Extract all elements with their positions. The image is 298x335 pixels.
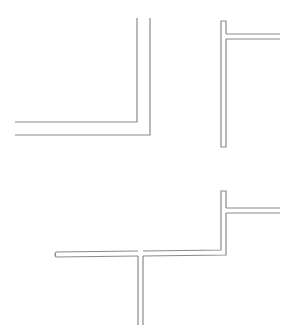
wall-line <box>15 18 137 122</box>
stepped-wall-with-stem <box>55 191 280 325</box>
wall-line <box>55 251 138 257</box>
l-corner-wall <box>15 18 150 135</box>
wall-line <box>15 18 150 135</box>
t-junction-wall-top-right <box>221 21 280 147</box>
wall-line <box>221 21 226 147</box>
wall-line <box>143 191 226 251</box>
wall-diagram <box>0 0 298 335</box>
